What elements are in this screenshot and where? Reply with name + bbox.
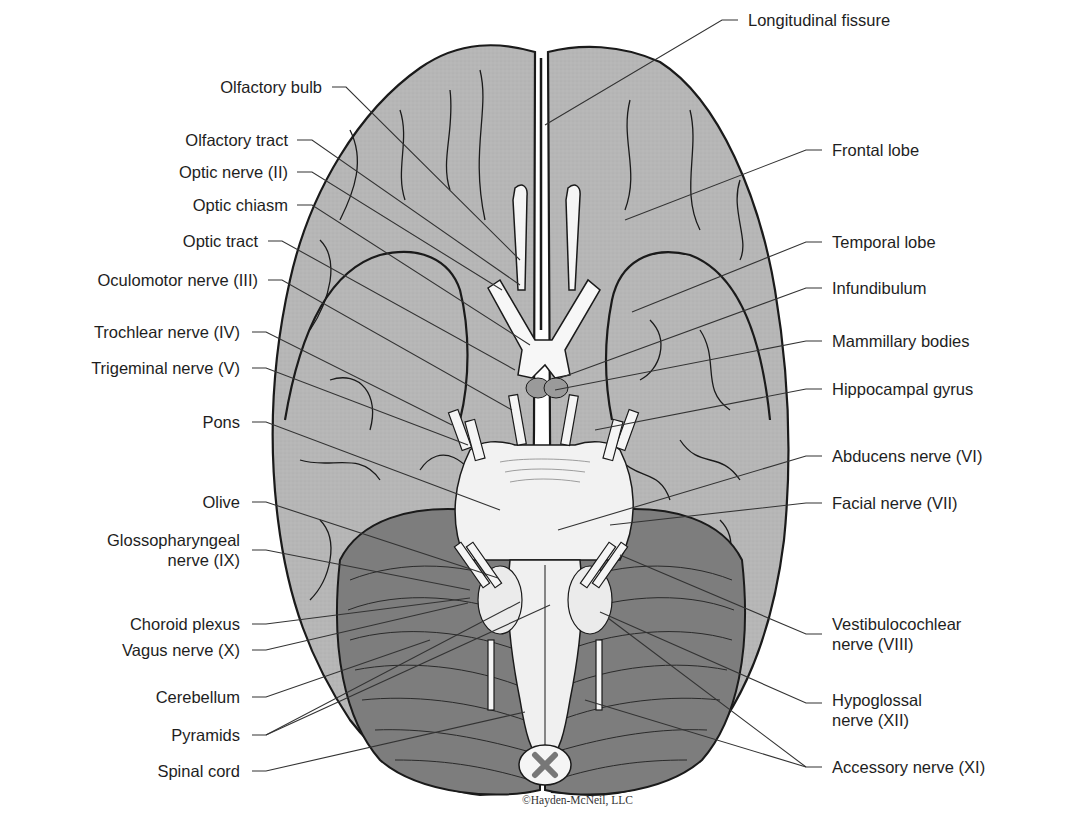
mammillary-bodies (526, 378, 568, 398)
label-glossopharyngeal-nerve: Glossopharyngeal nerve (IX) (0, 530, 240, 570)
label-facial-nerve: Facial nerve (VII) (832, 493, 958, 513)
label-line-1: Hypoglossal (832, 690, 922, 710)
olfactory-bulbs (513, 185, 580, 290)
label-vestibulocochlear-nerve: Vestibulocochlear nerve (VIII) (832, 614, 961, 654)
label-pons: Pons (0, 412, 240, 432)
label-vagus-nerve: Vagus nerve (X) (0, 640, 240, 660)
label-line-1: Vestibulocochlear (832, 614, 961, 634)
label-frontal-lobe: Frontal lobe (832, 140, 919, 160)
label-choroid-plexus: Choroid plexus (0, 614, 240, 634)
label-line-2: nerve (XII) (832, 710, 922, 730)
label-spinal-cord: Spinal cord (0, 761, 240, 781)
label-temporal-lobe: Temporal lobe (832, 232, 936, 252)
label-abducens-nerve: Abducens nerve (VI) (832, 446, 982, 466)
label-mammillary-bodies: Mammillary bodies (832, 331, 970, 351)
label-hypoglossal-nerve: Hypoglossal nerve (XII) (832, 690, 922, 730)
label-optic-tract: Optic tract (0, 231, 258, 251)
copyright-credit: ©Hayden-McNeil, LLC (522, 794, 633, 806)
spinal-cord (519, 745, 571, 785)
label-hippocampal-gyrus: Hippocampal gyrus (832, 379, 973, 399)
label-olive: Olive (0, 492, 240, 512)
label-olfactory-bulb: Olfactory bulb (0, 77, 322, 97)
label-trigeminal-nerve: Trigeminal nerve (V) (0, 358, 240, 378)
label-line-1: Glossopharyngeal (0, 530, 240, 550)
label-accessory-nerve: Accessory nerve (XI) (832, 757, 985, 777)
label-pyramids: Pyramids (0, 725, 240, 745)
label-line-2: nerve (VIII) (832, 634, 961, 654)
label-cerebellum: Cerebellum (0, 687, 240, 707)
label-oculomotor-nerve: Oculomotor nerve (III) (0, 270, 258, 290)
label-optic-nerve: Optic nerve (II) (0, 162, 288, 182)
label-optic-chiasm: Optic chiasm (0, 195, 288, 215)
label-line-2: nerve (IX) (0, 550, 240, 570)
label-trochlear-nerve: Trochlear nerve (IV) (0, 322, 240, 342)
label-longitudinal-fissure: Longitudinal fissure (748, 10, 890, 30)
label-olfactory-tract: Olfactory tract (0, 130, 288, 150)
label-infundibulum: Infundibulum (832, 278, 926, 298)
